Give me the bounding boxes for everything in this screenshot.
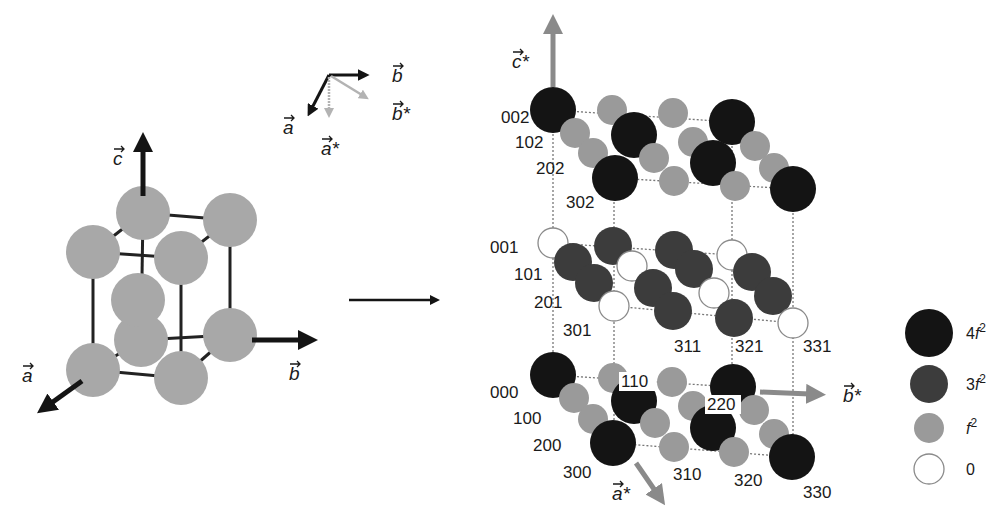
reflection-sphere-f2: [659, 432, 689, 462]
legend-label: 4f2: [966, 321, 986, 342]
reflection-sphere-f2: [639, 143, 669, 173]
hkl-label: 321: [735, 337, 763, 356]
reflection-sphere-0: [778, 308, 808, 338]
hkl-label: 301: [563, 321, 591, 340]
hkl-label: 202: [536, 159, 564, 178]
hkl-label: 220: [707, 395, 735, 414]
atom-sphere: [203, 193, 257, 247]
reflection-sphere-4f2: [592, 155, 638, 201]
reflection-sphere-f2: [658, 98, 688, 128]
atom-sphere: [203, 308, 257, 362]
reflection-sphere-4f2: [590, 420, 636, 466]
atom-sphere: [154, 351, 208, 405]
reflection-sphere-3f2: [715, 299, 753, 337]
reflection-sphere-4f2: [770, 166, 816, 212]
diffraction-diagram: c b a b a a* b*: [0, 0, 1006, 526]
hkl-label: 302: [566, 193, 594, 212]
reflection-sphere-f2: [640, 408, 670, 438]
legend-label: 3f2: [966, 372, 986, 393]
reflection-sphere-4f2: [769, 434, 815, 480]
atom-sphere: [154, 231, 208, 285]
intensity-legend: 4f23f2f20: [905, 309, 986, 484]
hkl-label: 331: [803, 337, 831, 356]
reflection-sphere-f2: [720, 171, 750, 201]
legend-label: 0: [966, 461, 975, 478]
a-axis-arrow: [50, 381, 82, 404]
reflection-sphere-f2: [739, 395, 769, 425]
hkl-label: 201: [534, 293, 562, 312]
legend-swatch-4f2: [905, 309, 953, 357]
real-lattice-cell: c b a: [22, 146, 302, 405]
hkl-label: 100: [513, 409, 541, 428]
hkl-label: 001: [490, 238, 518, 257]
hkl-label: 102: [515, 133, 543, 152]
reciprocal-lattice: 0021022023020011012013013113213310001002…: [490, 30, 862, 504]
hkl-label: 110: [621, 372, 648, 391]
hkl-label: 101: [514, 265, 542, 284]
legend-label: f2: [966, 416, 977, 437]
reflection-sphere-3f2: [654, 292, 692, 330]
hkl-label: 000: [490, 383, 518, 402]
atom-sphere: [66, 225, 120, 279]
legend-swatch-0: [914, 454, 944, 484]
atoms: [66, 186, 257, 405]
hkl-label: 310: [673, 465, 701, 484]
hkl-label: 311: [674, 337, 701, 356]
hkl-label: 200: [533, 436, 561, 455]
reflection-sphere-0: [599, 291, 629, 321]
reflection-sphere-f2: [719, 437, 749, 467]
basis-vector-inset: b a a* b*: [283, 63, 411, 159]
hkl-label: 002: [501, 108, 529, 127]
reflection-sphere-f2: [657, 367, 687, 397]
hkl-label: 300: [563, 463, 591, 482]
reflection-sphere-f2: [659, 166, 689, 196]
a-star-axis-arrow: [636, 463, 656, 492]
reflection-spheres: [530, 87, 816, 480]
legend-swatch-3f2: [910, 365, 948, 403]
atom-sphere: [111, 273, 165, 327]
legend-swatch-f2: [914, 413, 944, 443]
hkl-label: 320: [734, 471, 762, 490]
b-star-axis-arrow: [760, 392, 810, 394]
hkl-label: 330: [803, 483, 831, 502]
